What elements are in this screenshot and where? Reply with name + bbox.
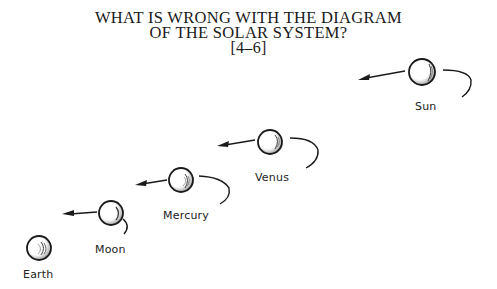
venus-label: Venus <box>255 171 289 184</box>
venus-direction-arrow-icon <box>225 140 255 145</box>
venus-icon <box>258 130 282 154</box>
mercury-orbit-path <box>199 176 229 204</box>
moon-body <box>62 201 127 234</box>
moon-icon <box>99 201 123 225</box>
earth-icon <box>27 236 51 260</box>
earth-label: Earth <box>23 268 54 281</box>
solar-system-diagram <box>0 0 497 289</box>
sun-body <box>358 59 471 97</box>
moon-label: Moon <box>95 243 126 256</box>
moon-direction-arrow-icon <box>70 212 97 214</box>
mercury-body <box>135 168 229 204</box>
sun-direction-arrow-icon <box>366 71 405 78</box>
moon-orbit-path <box>123 219 127 234</box>
mercury-label: Mercury <box>163 209 209 222</box>
sun-orbit-path <box>443 70 471 97</box>
sun-label: Sun <box>415 100 437 113</box>
venus-orbit-path <box>290 138 318 168</box>
earth-body <box>27 236 51 260</box>
venus-body <box>217 130 318 168</box>
